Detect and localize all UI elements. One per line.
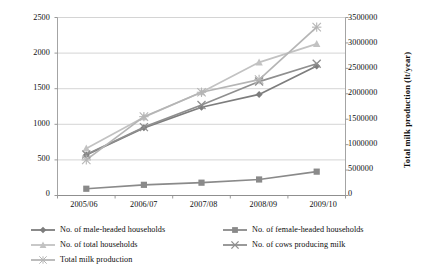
x-axis-tick-4: 2009/10 [292,201,354,209]
right-axis-tick-1: 500000 [348,165,402,173]
right-axis-tick-5: 2500000 [348,64,402,72]
legend-label: No. of cows producing milk [252,240,345,249]
x-axis-tick-3: 2008/09 [232,201,294,209]
left-axis-tick-0: 0 [14,190,50,198]
legend-item-cows-producing-milk[interactable]: No. of cows producing milk [222,237,345,252]
left-axis-tick-4: 2000 [14,49,50,57]
chart-canvas [0,0,439,218]
legend-marker-square-icon [222,224,248,236]
right-axis-tick-6: 3000000 [348,39,402,47]
legend-label: No. of female-headed households [252,225,364,234]
right-axis-tick-2: 1000000 [348,140,402,148]
legend-item-female-headed-households[interactable]: No. of female-headed households [222,222,364,237]
legend-label: No. of male-headed households [60,225,165,234]
legend-item-male-headed-households[interactable]: No. of male-headed households [30,222,165,237]
legend-label: No. of total households [60,240,138,249]
x-axis-tick-0: 2005/06 [53,201,115,209]
left-axis-tick-1: 500 [14,155,50,163]
left-axis-tick-3: 1500 [14,84,50,92]
x-axis-tick-1: 2006/07 [113,201,175,209]
chart-figure: 2500 2000 1500 1000 500 0 3500000 300000… [0,0,439,280]
legend-item-total-milk-production[interactable]: Total milk production [30,252,132,267]
right-axis-tick-7: 3500000 [348,14,402,22]
right-axis-tick-4: 2000000 [348,89,402,97]
legend-marker-diamond-icon [30,224,56,236]
right-axis-tick-0: 0 [348,190,402,198]
chart-legend: No. of male-headed households No. of fem… [0,222,439,280]
x-axis-tick-2: 2007/08 [173,201,235,209]
plot-area: 2500 2000 1500 1000 500 0 3500000 300000… [0,0,439,218]
legend-marker-cross-icon [222,239,248,251]
right-axis-tick-3: 1500000 [348,115,402,123]
left-axis-tick-2: 1000 [14,120,50,128]
legend-label: Total milk production [60,255,132,264]
left-axis-tick-5: 2500 [14,14,50,22]
legend-marker-triangle-icon [30,239,56,251]
legend-item-total-households[interactable]: No. of total households [30,237,138,252]
right-axis-title: Total milk production (lt/year) [398,0,412,18]
legend-marker-star-icon [30,254,56,266]
right-axis-title-text: Total milk production (lt/year) [402,20,412,200]
